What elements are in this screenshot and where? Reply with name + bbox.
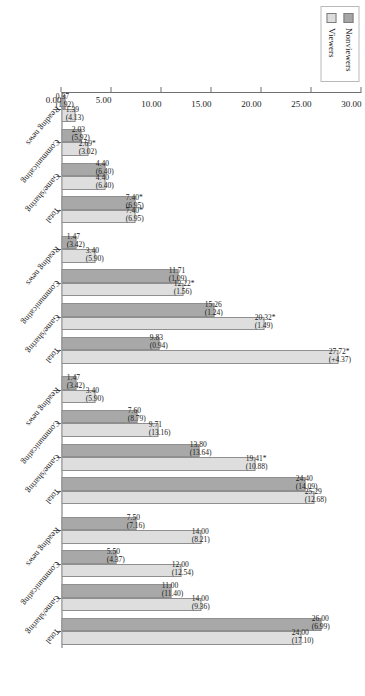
bar-value-label: 24.00(17.10)	[291, 629, 313, 645]
bar-viewers	[61, 283, 183, 296]
value-axis-tick	[160, 87, 161, 92]
legend-swatch-viewers	[326, 13, 336, 23]
bar-value-label: 1.47(3.42)	[66, 374, 84, 390]
bar-value-label: 26.00(6.99)	[311, 615, 329, 631]
value-axis-tick	[360, 87, 361, 92]
value-axis-tick	[260, 87, 261, 92]
bar-value-label: 4.40(6.40)	[95, 174, 113, 190]
value-axis-tick	[60, 87, 61, 92]
bar-value-label: 19.41*(10.88)	[245, 455, 267, 471]
bar-value-label: 5.50(4.37)	[106, 548, 124, 564]
legend-item-viewers: Viewers	[326, 13, 336, 72]
bar-nonviewers	[61, 517, 136, 530]
bar-viewers	[61, 491, 314, 504]
value-axis-label: 15.00	[191, 99, 211, 109]
bar-viewers	[61, 350, 338, 363]
value-axis-label: 25.00	[291, 99, 311, 109]
value-axis-label: 5.00	[95, 95, 111, 105]
bar-value-label: 12.22*(1.56)	[173, 281, 194, 297]
category-axis-label: Total	[43, 205, 62, 225]
bar-nonviewers	[61, 410, 137, 423]
bar-value-label: 11.00(11.40)	[161, 582, 183, 598]
category-axis-label: Total	[43, 346, 62, 366]
legend-label-nonviewers: Nonviewers	[344, 28, 353, 72]
bar-viewers	[61, 457, 255, 470]
bar-value-label: 3.40(5.90)	[85, 247, 103, 263]
bar-value-label: 14.00(9.36)	[191, 595, 209, 611]
value-axis-tick	[110, 87, 111, 92]
bar-value-label: 20.32*(1.49)	[254, 314, 275, 330]
bar-nonviewers	[61, 477, 305, 490]
bar-viewers	[61, 631, 301, 644]
bar-value-label: 3.40(5.90)	[85, 388, 103, 404]
bar-value-label: 12.00(12.54)	[171, 562, 193, 578]
bar-viewers	[61, 210, 135, 223]
value-axis-line	[61, 92, 361, 93]
value-axis-label: 20.00	[241, 99, 261, 109]
bar-viewers	[61, 317, 264, 330]
bar-viewers	[61, 530, 201, 543]
bar-value-label: 1.47(3.42)	[66, 234, 84, 250]
legend-item-nonviewers: Nonviewers	[343, 13, 353, 72]
bar-chart-figure: Nonviewers Viewers 0.005.0010.0015.0020.…	[0, 0, 365, 696]
plot-area: 0.005.0010.0015.0020.0025.0030.00Reading…	[61, 92, 361, 648]
bar-nonviewers	[61, 444, 199, 457]
bar-viewers	[61, 564, 181, 577]
bar-value-label: 7.60(8.79)	[127, 408, 145, 424]
bar-value-label: 7.50(7.16)	[126, 515, 144, 531]
bar-nonviewers	[61, 337, 159, 350]
bar-value-label: 27.72*(+4.37)	[328, 348, 350, 364]
bar-value-label: 14.00(8.21)	[191, 528, 209, 544]
legend-label-viewers: Viewers	[327, 28, 336, 57]
value-axis-tick	[310, 87, 311, 92]
bar-nonviewers	[61, 618, 321, 631]
category-axis-label: Total	[43, 486, 62, 506]
value-axis-tick	[210, 87, 211, 92]
bar-value-label: 1.39(4.13)	[65, 107, 83, 123]
chart-legend: Nonviewers Viewers	[320, 6, 359, 82]
bar-viewers	[61, 598, 201, 611]
bar-value-label: 9.83(0.94)	[150, 334, 168, 350]
bar-value-label: 13.80(13.64)	[189, 441, 211, 457]
value-axis-label: 30.00	[341, 99, 361, 109]
category-axis-label: Total	[43, 627, 62, 647]
bar-nonviewers	[61, 584, 171, 597]
bar-value-label: 2.69*(3.02)	[78, 140, 96, 156]
bar-viewers	[61, 423, 158, 436]
bar-value-label: 9.71(13.16)	[148, 421, 170, 437]
bar-nonviewers	[61, 269, 178, 282]
bar-value-label: 7.40*(6.95)	[125, 207, 143, 223]
bar-value-label: 15.26(1.24)	[204, 301, 222, 317]
bar-nonviewers	[61, 303, 214, 316]
chart-canvas: Nonviewers Viewers 0.005.0010.0015.0020.…	[0, 0, 365, 696]
bar-value-label: 25.29(12.68)	[304, 488, 326, 504]
legend-swatch-nonviewers	[343, 13, 353, 23]
value-axis-label: 10.00	[141, 99, 161, 109]
bar-nonviewers	[61, 196, 135, 209]
